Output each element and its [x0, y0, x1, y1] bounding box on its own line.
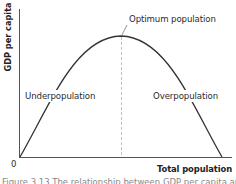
underpopulation-label: Underpopulation: [25, 92, 95, 101]
x-axis-label: Total population: [157, 165, 232, 173]
optimum-leader-line: [122, 25, 127, 35]
origin-label: 0: [11, 160, 16, 169]
figure-caption: Figure 3.13 The relationship between GDP…: [2, 177, 236, 184]
optimum-population-label: Optimum population: [129, 15, 216, 24]
overpopulation-label: Overpopulation: [153, 92, 218, 101]
y-axis-label: GDP per capita: [1, 6, 15, 68]
